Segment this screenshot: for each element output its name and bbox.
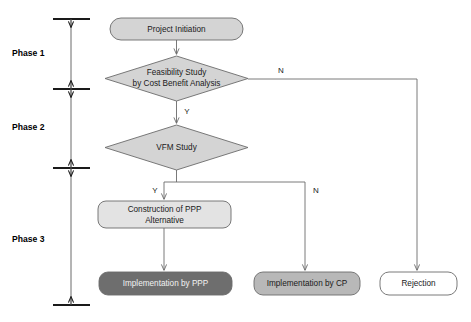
branch-label-vfm-yes: Y <box>152 186 158 195</box>
node-implementation-cp[interactable]: Implementation by CP <box>254 272 360 295</box>
node-feasibility-study-label-line1: Feasibility Study <box>147 68 208 77</box>
node-vfm-study-label: VFM Study <box>156 143 197 152</box>
node-construction-ppp-alternative-label-line2: Alternative <box>145 216 184 225</box>
node-construction-ppp-alternative-label-line1: Construction of PPP <box>128 205 202 214</box>
node-construction-ppp-alternative[interactable]: Construction of PPP Alternative <box>98 201 231 228</box>
node-rejection-label: Rejection <box>401 279 436 288</box>
branch-label-feasibility-yes: Y <box>184 107 190 116</box>
phase-label-1: Phase 1 <box>12 48 45 58</box>
node-project-initiation[interactable]: Project Initiation <box>110 18 243 40</box>
node-project-initiation-label: Project Initiation <box>147 25 206 34</box>
node-implementation-cp-label: Implementation by CP <box>267 279 348 288</box>
phase-axis <box>53 19 90 305</box>
branch-label-vfm-no: N <box>313 186 319 195</box>
connector-feasibility-no-to-rejection <box>248 79 417 270</box>
branch-label-feasibility-no: N <box>278 66 284 75</box>
phase-label-3: Phase 3 <box>12 234 45 244</box>
node-implementation-ppp[interactable]: Implementation by PPP <box>99 272 232 295</box>
phase-label-2: Phase 2 <box>12 122 45 132</box>
flowchart-canvas: Phase 1 Phase 2 Phase 3 N Y Y N Project … <box>0 0 471 322</box>
node-vfm-study[interactable]: VFM Study <box>105 125 248 170</box>
node-implementation-ppp-label: Implementation by PPP <box>123 279 209 288</box>
node-rejection[interactable]: Rejection <box>380 272 457 295</box>
flowchart-svg: Phase 1 Phase 2 Phase 3 N Y Y N Project … <box>0 0 471 322</box>
node-feasibility-study-label-line2: by Cost Benefit Analysis <box>133 79 221 88</box>
node-feasibility-study[interactable]: Feasibility Study by Cost Benefit Analys… <box>105 56 248 101</box>
